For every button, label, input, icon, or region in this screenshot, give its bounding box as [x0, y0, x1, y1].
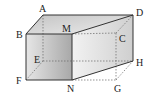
- label-M: M: [62, 23, 71, 34]
- front-face: [26, 34, 72, 80]
- geometry-figure: A B M D C E H F N G: [0, 0, 153, 97]
- label-D: D: [136, 7, 143, 18]
- label-C: C: [119, 33, 126, 44]
- label-B: B: [16, 29, 23, 40]
- label-H: H: [136, 57, 143, 68]
- label-E: E: [34, 54, 40, 65]
- label-N: N: [67, 83, 74, 94]
- prism-diagram: A B M D C E H F N G: [0, 0, 153, 97]
- label-G: G: [114, 83, 121, 94]
- label-A: A: [39, 3, 47, 14]
- label-F: F: [16, 75, 22, 86]
